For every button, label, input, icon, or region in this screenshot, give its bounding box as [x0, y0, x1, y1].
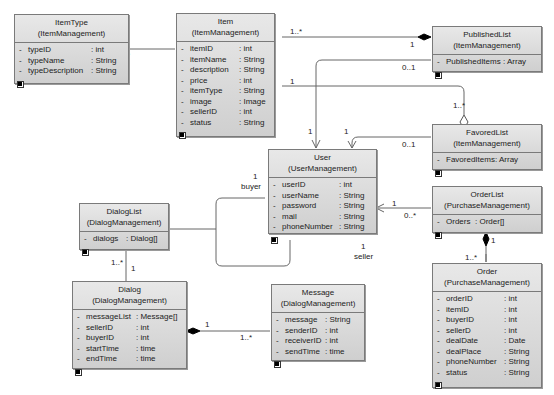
multiplicity-label: 1 — [392, 199, 396, 208]
multiplicity-label: 1 — [253, 172, 257, 181]
attribute-list: -PublishedItems: Array — [433, 55, 541, 80]
class-header: PublishedList (ItemManagement) — [433, 27, 541, 55]
class-package: (UserManagement) — [271, 163, 374, 174]
shortcut-icon — [274, 361, 281, 368]
attribute-row: -typeDescription: String — [19, 66, 124, 77]
attribute-row: -sellerID: int — [77, 323, 182, 334]
attribute-row: -FavoredItems: Array — [437, 155, 537, 166]
attribute-row: -itemName: String — [181, 55, 270, 66]
class-package: (ItemManagement) — [17, 28, 126, 39]
attribute-row: -senderID: int — [276, 326, 360, 337]
role-label: buyer — [241, 182, 261, 191]
class-box-publishedlist[interactable]: PublishedList (ItemManagement) -Publishe… — [432, 26, 542, 72]
attribute-row: -buyerID: int — [77, 333, 182, 344]
shortcut-icon — [75, 369, 82, 376]
attribute-row: -status: String — [181, 118, 270, 129]
attribute-row: -dealDate: Date — [437, 336, 537, 347]
class-header: Message (DialogManagement) — [272, 285, 364, 313]
attribute-row: -mail: String — [273, 212, 372, 223]
class-name: Item — [179, 16, 272, 27]
class-box-user[interactable]: User (UserManagement) -userID: int -user… — [268, 149, 377, 234]
class-box-message[interactable]: Message (DialogManagement) -message: Str… — [271, 284, 365, 361]
class-name: FavoredList — [435, 127, 539, 138]
shortcut-icon — [435, 170, 442, 177]
class-header: Order (PurchaseManagement) — [433, 264, 541, 292]
class-box-dialog[interactable]: Dialog (DialogManagement) -messageList: … — [72, 281, 187, 369]
attribute-row: -buyerID: int — [437, 315, 537, 326]
multiplicity-label: 1 — [205, 320, 209, 329]
shortcut-icon — [435, 382, 442, 389]
class-name: Order — [435, 266, 539, 277]
multiplicity-label: 1..* — [290, 27, 302, 36]
class-name: User — [271, 152, 374, 163]
attribute-list: -Orders: Order[] — [433, 215, 541, 240]
class-package: (ItemManagement) — [179, 27, 272, 38]
class-header: DialogList (DialogManagement) — [80, 204, 168, 232]
class-box-item[interactable]: Item (ItemManagement) -itemID: int -item… — [176, 13, 275, 137]
attribute-list: -message: String -senderID: int -receive… — [272, 313, 364, 369]
class-package: (ItemManagement) — [435, 138, 539, 149]
composition-diamond-icon — [418, 34, 431, 40]
attribute-row: -startTime: time — [77, 344, 182, 355]
attribute-row: -receiverID: int — [276, 336, 360, 347]
shortcut-icon — [179, 132, 186, 139]
class-package: (ItemManagement) — [435, 40, 539, 51]
multiplicity-label: 1 — [344, 127, 348, 136]
class-box-itemtype[interactable]: ItemType (ItemManagement) -typeID: int -… — [14, 14, 129, 84]
attribute-row: -message: String — [276, 315, 360, 326]
multiplicity-label: 1..* — [111, 258, 123, 267]
multiplicity-label: 1 — [131, 264, 135, 273]
shortcut-icon — [435, 232, 442, 239]
multiplicity-label: 0..* — [404, 211, 416, 220]
attribute-row: -typeID: int — [19, 45, 124, 56]
class-name: Message — [274, 287, 362, 298]
class-package: (DialogManagement) — [75, 295, 184, 306]
attribute-row: -orderID: int — [437, 294, 537, 305]
attribute-list: -messageList: Message[] -sellerID: int -… — [73, 310, 186, 377]
multiplicity-label: 1 — [410, 40, 414, 49]
role-label: seller — [354, 252, 373, 261]
attribute-row: -itemType: String — [181, 86, 270, 97]
attribute-row: -password: String — [273, 201, 372, 212]
attribute-list: -itemID: int -itemName: String -descript… — [177, 42, 274, 140]
class-package: (DialogManagement) — [274, 298, 362, 309]
class-package: (PurchaseManagement) — [435, 200, 539, 211]
class-name: DialogList — [82, 206, 166, 217]
multiplicity-label: 1..* — [453, 101, 465, 110]
attribute-list: -userID: int -userName: String -password… — [269, 178, 376, 245]
class-header: Dialog (DialogManagement) — [73, 282, 186, 310]
shortcut-icon — [17, 81, 24, 88]
attribute-row: -image: Image — [181, 97, 270, 108]
class-header: ItemType (ItemManagement) — [15, 15, 128, 43]
class-header: User (UserManagement) — [269, 150, 376, 178]
multiplicity-label: 1..* — [465, 253, 477, 262]
composition-diamond-icon — [186, 328, 200, 334]
class-box-order[interactable]: Order (PurchaseManagement) -orderID: int… — [432, 263, 542, 388]
multiplicity-label: 1..* — [240, 333, 252, 342]
class-box-dialoglist[interactable]: DialogList (DialogManagement) -dialogs: … — [79, 203, 169, 250]
attribute-row: -userName: String — [273, 191, 372, 202]
shortcut-icon — [271, 237, 278, 244]
attribute-list: -orderID: int -itemID: int -buyerID: int… — [433, 292, 541, 390]
attribute-row: -sendTime: time — [276, 347, 360, 358]
attribute-row: -sellerID: int — [181, 107, 270, 118]
attribute-row: -description: String — [181, 65, 270, 76]
attribute-row: -Orders: Order[] — [437, 217, 537, 228]
attribute-row: -sellerD: int — [437, 326, 537, 337]
assoc-published-user — [316, 60, 431, 148]
class-name: OrderList — [435, 189, 539, 200]
class-name: Dialog — [75, 284, 184, 295]
attribute-row: -typeName: String — [19, 56, 124, 67]
attribute-list: -typeID: int -typeName: String -typeDesc… — [15, 43, 128, 89]
class-box-orderlist[interactable]: OrderList (PurchaseManagement) -Orders: … — [432, 186, 542, 233]
attribute-row: -PublishedItems: Array — [437, 57, 537, 68]
attribute-row: -phoneNumber: String — [437, 357, 537, 368]
class-package: (DialogManagement) — [82, 217, 166, 228]
attribute-row: -dialogs: Dialog[] — [84, 234, 164, 245]
attribute-list: -dialogs: Dialog[] — [80, 232, 168, 257]
class-box-favoredlist[interactable]: FavoredList (ItemManagement) -FavoredIte… — [432, 124, 542, 170]
multiplicity-label: 0..1 — [402, 140, 415, 149]
class-name: PublishedList — [435, 29, 539, 40]
attribute-row: -messageList: Message[] — [77, 312, 182, 323]
attribute-row: -endTime: time — [77, 354, 182, 365]
